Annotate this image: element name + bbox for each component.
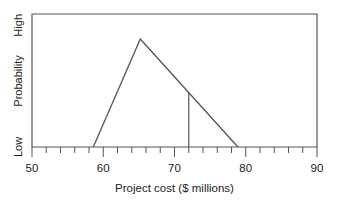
x-axis-label: Project cost ($ millions)	[115, 182, 234, 194]
x-axis-ticks	[32, 147, 317, 157]
plot-frame	[32, 14, 317, 147]
triangle-distribution-line	[93, 39, 238, 147]
x-tick-label: 50	[26, 162, 39, 174]
y-axis-label: Probability	[12, 55, 24, 107]
x-tick-label: 90	[311, 162, 324, 174]
cost-probability-chart: 5060708090 Project cost ($ millions) Low…	[0, 0, 337, 209]
y-axis-low-label: Low	[12, 137, 24, 157]
x-tick-label: 60	[97, 162, 110, 174]
distribution-series	[93, 39, 238, 147]
frame-border	[32, 14, 317, 147]
x-axis-tick-labels: 5060708090	[26, 162, 324, 174]
x-tick-label: 70	[168, 162, 181, 174]
x-tick-label: 80	[239, 162, 252, 174]
y-axis-high-label: High	[12, 14, 24, 37]
